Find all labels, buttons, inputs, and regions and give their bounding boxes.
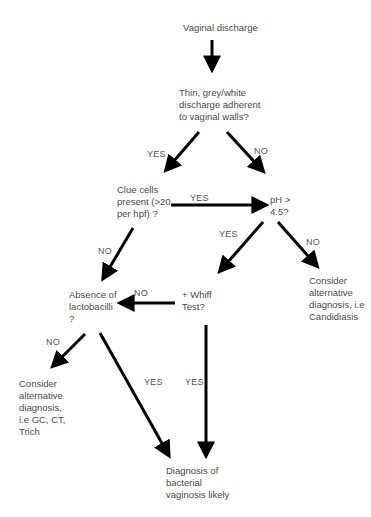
node-question-discharge: Thin, grey/white discharge adherent to v… (179, 87, 260, 123)
node-question-whiff-test: + Whiff Test? (182, 289, 212, 313)
flowchart-arrows (0, 0, 371, 517)
edge-label-ph-yes: YES (219, 229, 238, 239)
arrow-lacto-yes (100, 333, 168, 454)
node-alt-diagnosis-candidiasis: Consider alternative diagnosis, i.e Cand… (309, 275, 364, 323)
edge-label-whiff-yes: YES (185, 377, 204, 387)
edge-label-discharge-yes: YES (147, 149, 166, 159)
edge-label-lacto-yes: YES (144, 377, 163, 387)
node-question-ph: pH > 4.5? (270, 194, 290, 218)
node-alt-diagnosis-gc-ct-trich: Consider alternative diagnosis, i.e GC, … (19, 378, 65, 438)
node-question-lactobacilli: Absence of lactobacilli ? (69, 289, 117, 325)
node-start-vaginal-discharge: Vaginal discharge (183, 22, 258, 34)
edge-label-clue-yes: YES (190, 193, 209, 203)
node-question-clue-cells: Clue cells present (>20 per hpf) ? (117, 184, 171, 220)
edge-label-whiff-no: NO (134, 288, 148, 298)
edge-label-discharge-no: NO (254, 146, 268, 156)
edge-label-lacto-no: NO (46, 337, 60, 347)
arrow-discharge-yes (167, 132, 199, 169)
edge-label-clue-no: NO (98, 246, 112, 256)
node-diagnosis-bacterial-vaginosis: Diagnosis of bacterial vaginosis likely (166, 465, 229, 501)
edge-label-ph-no: NO (306, 237, 320, 247)
